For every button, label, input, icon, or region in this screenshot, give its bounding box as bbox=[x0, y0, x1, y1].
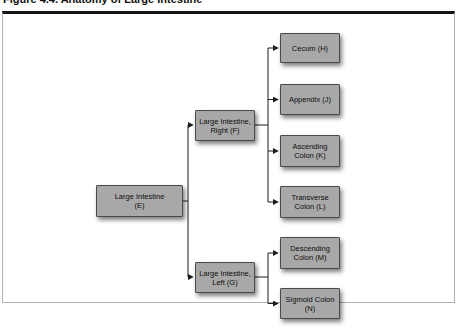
node-appendix-j: Appendix (J) bbox=[280, 84, 340, 115]
node-cecum-h: Cecum (H) bbox=[280, 33, 340, 63]
node-label: Appendix (J) bbox=[289, 95, 331, 104]
node-label: Descending Colon (M) bbox=[290, 244, 330, 262]
node-label: Transverse Colon (L) bbox=[291, 193, 328, 211]
node-label: Large Intestine, Right (F) bbox=[199, 117, 251, 135]
node-ascending-colon-k: Ascending Colon (K) bbox=[280, 135, 340, 167]
node-label: Large Intestine, Left (G) bbox=[199, 269, 251, 287]
figure-page: Figure 4.4. Anatomy of Large Intestine bbox=[0, 0, 464, 332]
node-large-intestine-left-g: Large Intestine, Left (G) bbox=[195, 262, 255, 293]
node-label: Sigmoid Colon (N) bbox=[286, 295, 335, 313]
node-descending-colon-m: Descending Colon (M) bbox=[280, 237, 340, 269]
node-large-intestine-e: Large Intestine (E) bbox=[96, 185, 183, 217]
node-label: Large Intestine (E) bbox=[115, 192, 165, 210]
node-sigmoid-colon-n: Sigmoid Colon (N) bbox=[280, 288, 340, 319]
node-label: Ascending Colon (K) bbox=[292, 142, 327, 160]
node-large-intestine-right-f: Large Intestine, Right (F) bbox=[195, 110, 255, 141]
node-transverse-colon-l: Transverse Colon (L) bbox=[280, 186, 340, 218]
node-label: Cecum (H) bbox=[292, 44, 328, 53]
